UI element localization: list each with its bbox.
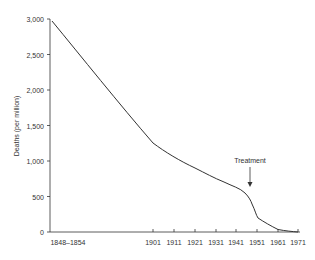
x-tick-1941: 1941 [228,239,244,246]
y-tick-500: 500 [32,194,44,201]
y-tick-0: 0 [40,229,44,236]
x-tick-1931: 1931 [208,239,224,246]
arrow-down-icon [248,182,253,187]
x-tick-1911: 1911 [166,239,181,246]
y-tick-1500: 1,500 [26,123,44,130]
treatment-label: Treatment [234,157,266,164]
x-tick-1901: 1901 [145,239,161,246]
x-tick-labels: 1848–1854 1901 1911 1921 1931 1941 1951 … [50,239,305,246]
y-tick-labels: 3,000 2,500 2,000 1,500 1,000 500 0 [26,16,44,236]
x-tick-1961: 1961 [270,239,286,246]
x-ticks [153,229,298,232]
y-axis-label: Deaths (per million) [13,96,21,157]
treatment-annotation: Treatment [234,157,266,187]
y-tick-2000: 2,000 [26,87,44,94]
x-tick-1921: 1921 [187,239,203,246]
y-ticks [47,19,50,232]
x-tick-1971: 1971 [290,239,306,246]
x-tick-1848-1854: 1848–1854 [50,239,85,246]
y-tick-3000: 3,000 [26,16,44,23]
x-tick-1951: 1951 [249,239,265,246]
line-chart: 3,000 2,500 2,000 1,500 1,000 500 0 Deat… [0,0,315,260]
deaths-series-line [52,21,298,232]
y-tick-1000: 1,000 [26,158,44,165]
y-tick-2500: 2,500 [26,52,44,59]
